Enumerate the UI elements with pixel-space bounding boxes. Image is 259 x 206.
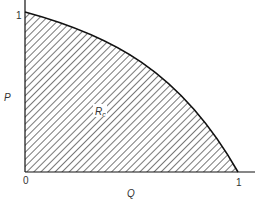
x-axis-label: Q — [127, 188, 135, 199]
hatched-region — [25, 12, 238, 172]
x-tick-1: 1 — [236, 177, 242, 188]
y-tick-1: 1 — [16, 10, 22, 21]
x-tick-0: 0 — [23, 175, 29, 186]
region-diagram: Rc 1 0 1 P Q — [0, 0, 259, 206]
y-axis-label: P — [4, 92, 11, 103]
